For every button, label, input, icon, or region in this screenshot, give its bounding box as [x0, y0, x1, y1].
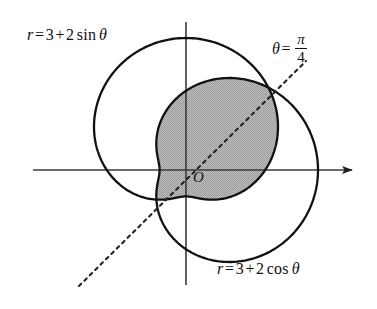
label-ray-equals: = — [280, 41, 292, 58]
label-cos-three: 3 — [236, 260, 244, 277]
shaded-intersection-region — [156, 78, 278, 200]
label-sin-function: sin — [74, 26, 96, 43]
fraction-denominator: 4 — [295, 49, 307, 65]
label-sin-curve: r=3+2sinθ — [27, 27, 107, 44]
label-ray-equation: θ= π 4 — [272, 33, 307, 66]
label-cos-theta: θ — [289, 260, 300, 277]
fraction-numerator: π — [295, 32, 307, 48]
label-sin-equals: = — [33, 26, 45, 43]
label-ray-theta: θ — [272, 41, 280, 58]
label-cos-plus: + — [244, 260, 256, 277]
origin-label: O — [193, 170, 204, 186]
figure-canvas — [0, 0, 377, 309]
fraction-pi-over-4: π 4 — [295, 32, 307, 65]
label-cos-curve: r=3+2cosθ — [217, 261, 300, 278]
label-sin-plus: + — [54, 26, 66, 43]
label-cos-function: cos — [264, 260, 288, 277]
polar-figure: r=3+2sinθ r=3+2cosθ θ= π 4 O — [0, 0, 377, 309]
label-cos-equals: = — [223, 260, 235, 277]
label-sin-three: 3 — [46, 26, 54, 43]
label-sin-theta: θ — [96, 26, 107, 43]
